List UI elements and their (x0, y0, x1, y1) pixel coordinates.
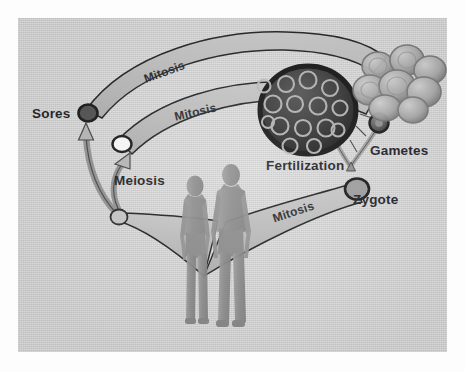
label-meiosis: Meiosis (114, 174, 165, 188)
node-spore-cell (79, 105, 98, 122)
label-zygote: Zygote (353, 193, 398, 207)
diagram-graphics (18, 18, 447, 352)
node-human-female (180, 176, 210, 325)
label-gametes: Gametes (370, 144, 428, 158)
node-sporangium-body (258, 66, 373, 154)
node-diploid-cell (111, 210, 128, 225)
diagram-panel: Sores Mitosis Mitosis Meiosis Fertilizat… (18, 18, 447, 352)
node-haploid-cell (113, 136, 132, 152)
label-fertilization: Fertilization (266, 159, 344, 173)
label-sores: Sores (32, 107, 71, 121)
diagram-canvas: Sores Mitosis Mitosis Meiosis Fertilizat… (0, 0, 465, 372)
